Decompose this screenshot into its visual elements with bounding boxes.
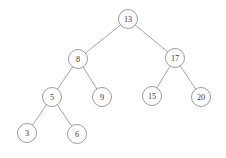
tree-node-layer: 1381759152036 xyxy=(18,10,211,144)
node-label-13: 13 xyxy=(124,15,132,24)
tree-node-15: 15 xyxy=(143,87,162,106)
node-label-17: 17 xyxy=(171,54,179,63)
tree-node-8: 8 xyxy=(69,50,88,69)
tree-edge-layer xyxy=(32,25,195,126)
binary-search-tree-figure: 1381759152036 xyxy=(0,0,226,158)
tree-edge-8-to-9 xyxy=(83,67,97,89)
tree-node-9: 9 xyxy=(93,88,112,107)
node-label-20: 20 xyxy=(197,93,205,102)
tree-node-13: 13 xyxy=(119,10,138,29)
tree-node-6: 6 xyxy=(68,125,87,144)
tree-edge-13-to-8 xyxy=(85,25,120,53)
tree-diagram-canvas: 1381759152036 xyxy=(0,0,226,158)
tree-edge-17-to-15 xyxy=(157,66,170,88)
node-label-8: 8 xyxy=(76,55,80,64)
tree-node-17: 17 xyxy=(166,49,185,68)
caption-ghost-text xyxy=(0,149,226,157)
tree-edge-5-to-3 xyxy=(32,105,46,125)
tree-edge-5-to-6 xyxy=(57,105,71,126)
tree-node-20: 20 xyxy=(192,88,211,107)
tree-edge-13-to-17 xyxy=(135,25,167,52)
node-label-15: 15 xyxy=(148,92,156,101)
tree-edge-17-to-20 xyxy=(180,66,195,89)
tree-edge-8-to-5 xyxy=(57,67,72,89)
node-label-3: 3 xyxy=(25,129,29,138)
node-label-9: 9 xyxy=(100,93,104,102)
tree-node-3: 3 xyxy=(18,124,37,143)
tree-node-5: 5 xyxy=(43,88,62,107)
node-label-6: 6 xyxy=(75,130,79,139)
node-label-5: 5 xyxy=(50,93,54,102)
